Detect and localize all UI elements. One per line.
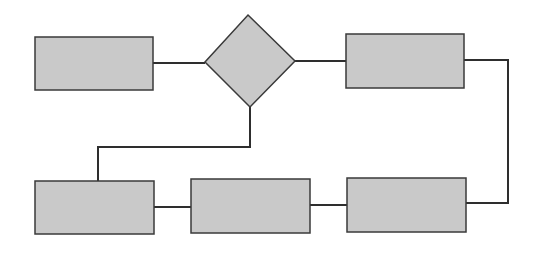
rect-top-left: [35, 37, 153, 90]
edge-diamond-to-bottom-left: [98, 107, 250, 181]
rect-bottom-left: [35, 181, 154, 234]
rect-bottom-right: [347, 178, 466, 232]
rect-bottom-middle: [191, 179, 310, 233]
rect-top-right: [346, 34, 464, 88]
edge-top-right-to-bottom-right: [464, 60, 508, 203]
decision-diamond: [205, 15, 295, 107]
flowchart-canvas: [0, 0, 539, 255]
